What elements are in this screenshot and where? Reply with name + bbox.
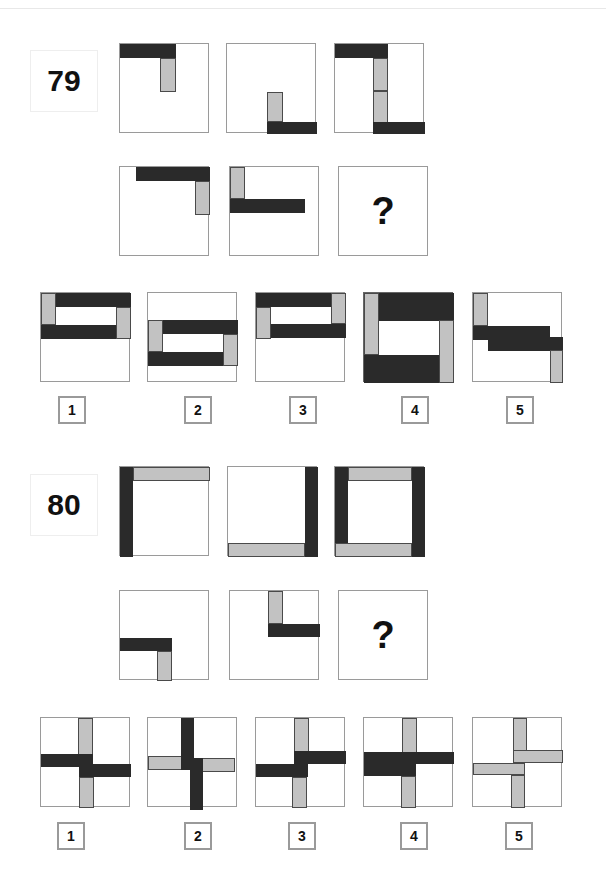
light-bar xyxy=(148,320,163,352)
light-bar xyxy=(373,91,388,123)
light-bar xyxy=(256,307,271,339)
light-bar xyxy=(335,543,412,557)
light-bar xyxy=(228,543,305,557)
light-bar xyxy=(79,777,94,808)
dark-bar xyxy=(335,467,348,543)
light-bar xyxy=(401,776,416,808)
sequence-figure-cell xyxy=(119,466,209,556)
problem-number: 79 xyxy=(30,50,98,112)
dark-bar xyxy=(162,320,238,334)
dark-bar xyxy=(55,293,131,307)
sequence-figure-cell xyxy=(229,590,319,680)
light-bar xyxy=(223,334,238,366)
answer-option-5-label[interactable]: 5 xyxy=(505,822,533,850)
problem-number: 80 xyxy=(30,474,98,536)
light-bar xyxy=(133,467,210,481)
light-bar xyxy=(473,763,525,775)
page-top-divider xyxy=(0,8,606,9)
dark-bar xyxy=(305,467,318,557)
answer-option-4-label[interactable]: 4 xyxy=(400,822,428,850)
answer-option-2-label[interactable]: 2 xyxy=(184,822,212,850)
dark-bar xyxy=(373,122,425,134)
light-bar xyxy=(513,718,527,752)
sequence-figure-cell xyxy=(334,466,424,556)
answer-option-2-figure[interactable] xyxy=(147,717,237,807)
light-bar xyxy=(78,718,93,756)
light-bar xyxy=(268,591,283,624)
light-bar xyxy=(157,651,172,681)
dark-bar xyxy=(364,752,454,764)
dark-bar xyxy=(120,44,176,58)
answer-option-1-label[interactable]: 1 xyxy=(57,822,85,850)
dark-bar xyxy=(364,764,416,776)
dark-bar xyxy=(230,199,305,213)
sequence-figure-cell xyxy=(119,590,209,680)
question-mark: ? xyxy=(339,591,427,679)
dark-bar xyxy=(270,324,346,338)
sequence-figure-cell xyxy=(119,166,209,256)
light-bar xyxy=(148,756,182,770)
answer-option-5-figure[interactable] xyxy=(472,292,562,382)
dark-bar xyxy=(335,44,388,58)
light-bar xyxy=(331,293,346,324)
light-bar xyxy=(513,750,563,763)
dark-bar xyxy=(294,751,346,764)
missing-figure-cell: ? xyxy=(338,166,428,256)
question-mark: ? xyxy=(339,167,427,255)
dark-bar xyxy=(120,467,133,557)
light-bar xyxy=(402,718,417,754)
dark-bar xyxy=(120,638,172,651)
answer-option-3-figure[interactable] xyxy=(255,292,345,382)
light-bar xyxy=(373,58,388,91)
light-bar xyxy=(200,758,235,772)
answer-option-1-figure[interactable] xyxy=(40,717,130,807)
answer-option-3-figure[interactable] xyxy=(255,717,345,807)
light-bar xyxy=(473,293,488,326)
light-bar xyxy=(550,350,563,383)
answer-option-2-label[interactable]: 2 xyxy=(184,396,212,424)
dark-bar xyxy=(41,325,117,339)
answer-option-1-figure[interactable] xyxy=(40,292,130,382)
light-bar xyxy=(511,775,525,808)
light-bar xyxy=(292,777,307,808)
dark-bar xyxy=(136,167,210,181)
answer-option-4-figure[interactable] xyxy=(363,292,453,382)
dark-bar xyxy=(412,467,425,557)
dark-bar xyxy=(488,337,550,351)
dark-bar xyxy=(267,122,317,134)
answer-option-1-label[interactable]: 1 xyxy=(58,396,86,424)
answer-option-3-label[interactable]: 3 xyxy=(289,396,317,424)
light-bar xyxy=(348,467,412,481)
light-bar xyxy=(364,293,379,355)
light-bar xyxy=(439,320,454,383)
sequence-figure-cell xyxy=(119,43,209,133)
light-bar xyxy=(294,718,309,753)
answer-option-4-label[interactable]: 4 xyxy=(401,396,429,424)
sequence-figure-cell xyxy=(229,166,319,256)
light-bar xyxy=(41,293,56,325)
light-bar xyxy=(116,307,131,339)
light-bar xyxy=(160,58,176,92)
dark-bar xyxy=(268,624,320,637)
light-bar xyxy=(195,181,210,215)
answer-option-2-figure[interactable] xyxy=(147,292,237,382)
dark-bar xyxy=(550,337,563,350)
dark-bar xyxy=(256,293,332,307)
dark-bar xyxy=(148,352,224,366)
sequence-figure-cell xyxy=(334,43,424,133)
answer-option-5-label[interactable]: 5 xyxy=(506,396,534,424)
light-bar xyxy=(230,167,245,199)
answer-option-3-label[interactable]: 3 xyxy=(288,822,316,850)
light-bar xyxy=(267,92,283,122)
sequence-figure-cell xyxy=(226,43,316,133)
dark-bar xyxy=(364,355,440,383)
dark-bar xyxy=(256,764,308,777)
answer-option-4-figure[interactable] xyxy=(363,717,453,807)
missing-figure-cell: ? xyxy=(338,590,428,680)
sequence-figure-cell xyxy=(227,466,317,556)
dark-bar xyxy=(190,758,203,810)
answer-option-5-figure[interactable] xyxy=(472,717,562,807)
dark-bar xyxy=(378,293,454,321)
dark-bar xyxy=(79,764,131,777)
